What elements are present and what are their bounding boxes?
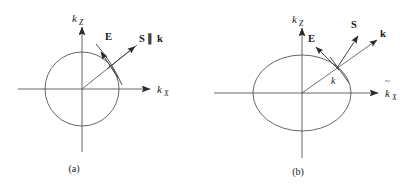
figure-container: k Z k X E S ∥ k (a) k Z ~ k X	[0, 0, 420, 184]
panel-a-label-k: k	[157, 33, 163, 44]
panel-b-kx-label-sub: X	[391, 93, 397, 102]
panel-a-label-parallel: ∥	[147, 33, 153, 45]
panel-b-caption: (b)	[292, 166, 304, 178]
panel-b-kx-tilde: ~	[385, 76, 390, 86]
figure-background	[0, 0, 420, 184]
panel-b-label-S: S	[351, 19, 357, 30]
panel-a-kx-label-sub: X	[163, 89, 169, 98]
panel-a-label-E: E	[105, 31, 112, 42]
panel-b-ray-label: k	[331, 75, 336, 86]
panel-a-label-S: S	[139, 33, 145, 44]
wave-vector-surface-diagram: k Z k X E S ∥ k (a) k Z ~ k X	[0, 0, 420, 184]
panel-b-label-k: k	[380, 28, 386, 39]
panel-b-label-E: E	[308, 33, 315, 44]
panel-a-caption: (a)	[68, 163, 79, 175]
